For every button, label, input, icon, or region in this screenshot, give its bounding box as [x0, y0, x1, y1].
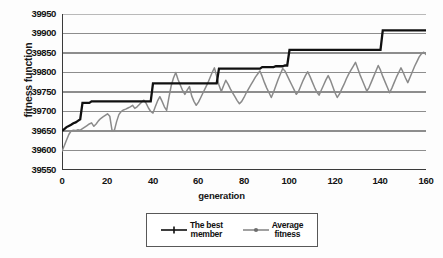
legend-line-marker-gray-icon — [243, 221, 269, 239]
legend-entry-average-fitness: Average fitness — [243, 221, 303, 240]
x-tick-label: 120 — [320, 175, 350, 186]
x-tick-label: 20 — [92, 175, 122, 186]
x-axis-title: generation — [0, 190, 443, 201]
legend-entry-best-member: The best member — [161, 221, 223, 240]
fitness-function-chart-figure: fitness function 39950 39900 39850 39800… — [0, 0, 443, 258]
legend-line-marker-black-icon — [161, 221, 187, 239]
legend-label-best-member: The best member — [190, 221, 223, 240]
chart-legend: The best member Average fitness — [146, 213, 318, 247]
x-tick-label: 100 — [274, 175, 304, 186]
x-tick-label: 0 — [47, 175, 77, 186]
x-tick-label: 40 — [138, 175, 168, 186]
x-tick-label: 160 — [411, 175, 441, 186]
legend-label-average-fitness: Average fitness — [272, 221, 303, 240]
x-tick-label: 140 — [365, 175, 395, 186]
x-tick-label: 60 — [183, 175, 213, 186]
x-tick-label: 80 — [229, 175, 259, 186]
